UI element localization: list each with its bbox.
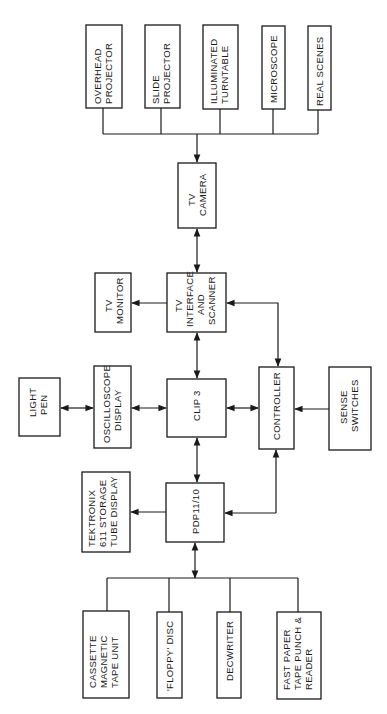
node-tektronix-display: TEKTRONIX 611 STORAGE TUBE DISPLAY [82,472,130,552]
node-real-scenes: REAL SCENES [308,26,331,110]
node-light-pen: LIGHTPEN [19,378,60,436]
edge-interface-controller [227,303,278,366]
svg-text:OVERHEADPROJECTOR: OVERHEADPROJECTOR [92,43,114,104]
peripheral-bus [107,578,298,612]
svg-text:MICROSCOPE: MICROSCOPE [268,35,279,103]
node-slide-projector: SLIDEPROJECTOR [145,25,180,108]
input-bus [103,108,318,162]
svg-text:PDP11/10: PDP11/10 [190,489,201,534]
node-tv-interface-scanner: TV INTERFACE AND SCANNER [167,268,226,332]
svg-text:REAL SCENES: REAL SCENES [314,37,325,106]
node-clip3: CLIP 3 [167,379,226,437]
node-pdp11-10: PDP11/10 [166,483,224,542]
svg-text:DECWRITER: DECWRITER [224,621,235,681]
svg-text:CONTROLLER: CONTROLLER [271,372,282,440]
node-tv-monitor: TVMONITOR [95,273,131,332]
block-diagram: OVERHEADPROJECTOR SLIDEPROJECTOR ILLUMIN… [0,0,387,714]
node-controller: CONTROLLER [259,367,294,449]
node-sense-switches: SENSESWITCHES [329,367,371,450]
node-fast-paper-tape: FAST PAPER TAPE PUNCH & READER [277,612,321,699]
node-decwriter: DECWRITER [217,612,241,698]
node-cassette-tape-unit: CASSETTE MAGNETIC TAPE UNIT [83,611,129,698]
svg-text:ILLUMINATEDTURNTABLE: ILLUMINATEDTURNTABLE [208,39,230,104]
svg-text:'FLOPPY' DISC: 'FLOPPY' DISC [164,621,175,691]
svg-text:CASSETTE MAGNETIC: CASSETTE MAGNETIC TAPE UNIT [87,632,120,688]
node-overhead-projector: OVERHEADPROJECTOR [86,25,122,108]
svg-text:CLIP 3: CLIP 3 [191,390,202,421]
node-illuminated-turntable: ILLUMINATEDTURNTABLE [203,25,238,109]
node-microscope: MICROSCOPE [262,26,285,109]
node-oscilloscope-display: OSCILLOSCOPEDISPLAY [94,365,131,448]
node-tv-camera: TVCAMERA [178,163,216,228]
node-floppy-disc: 'FLOPPY' DISC [157,612,182,698]
